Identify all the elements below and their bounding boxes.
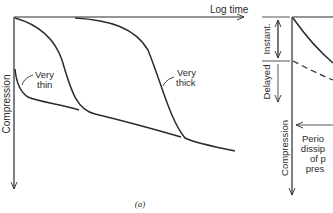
annotation-line-4: pres: [306, 163, 325, 174]
label-instant: Instant.: [261, 23, 272, 54]
curve-very-thick: [75, 18, 235, 151]
label-very-thin-2: thin: [37, 79, 52, 90]
curve-b-dashed: [293, 61, 333, 80]
panel-a: Log time Compression Very thin Very thic…: [1, 4, 249, 209]
panel-b: Instant. Delayed Compression Perio dissi…: [261, 17, 333, 195]
leader-very-thick: [163, 77, 174, 86]
caption-a: (a): [135, 199, 146, 209]
leader-very-thin: [22, 75, 33, 85]
consolidation-diagram: Log time Compression Very thin Very thic…: [0, 0, 333, 213]
x-axis-label: Log time: [210, 4, 249, 15]
label-delayed: Delayed: [261, 65, 272, 100]
y-axis-label: Compression: [1, 75, 12, 134]
curve-b-solid: [293, 18, 333, 63]
y-axis-label-b: Compression: [279, 120, 290, 176]
label-very-thick-2: thick: [176, 77, 196, 88]
